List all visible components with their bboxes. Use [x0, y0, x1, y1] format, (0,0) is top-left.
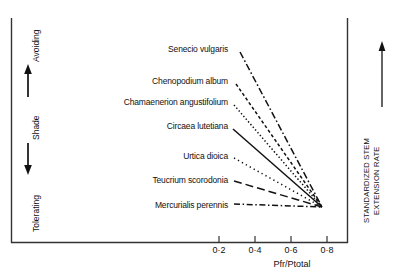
species-label-chenopodium-album: Chenopodium album: [60, 77, 228, 86]
species-label-circaea-lutetiana: Circaea lutetiana: [60, 122, 228, 131]
series-line-teucrium-scorodonia: [234, 181, 322, 207]
series-line-mercurialis-perennis: [234, 204, 322, 207]
right-axis-label-line1: STANDARDIZED STEM: [362, 138, 371, 223]
right-axis-label-line2: EXTENSION RATE: [372, 147, 381, 215]
species-label-senecio-vulgaris: Senecio vulgaris: [60, 45, 228, 54]
x-tick-label-0.6: 0·6: [275, 245, 307, 255]
left-axis-label-tolerating: Tolerating: [31, 195, 41, 232]
series-line-chamaenerion-angustifolium: [234, 105, 322, 207]
right-arrow-up-icon: [379, 41, 386, 107]
left-axis-label-avoiding: Avoiding: [31, 30, 41, 62]
series-line-group: [233, 52, 322, 207]
x-tick-label-0.4: 0·4: [239, 245, 271, 255]
arrow-up-icon: [24, 64, 32, 97]
species-label-chamaenerion-angustifolium: Chamaenerion angustifolium: [60, 98, 228, 107]
arrow-down-icon: [24, 143, 32, 175]
species-label-teucrium-scorodonia: Teucrium scorodonia: [60, 176, 228, 185]
series-line-circaea-lutetiana: [233, 129, 322, 207]
x-tick-label-0.2: 0·2: [203, 245, 235, 255]
x-tick-label-0.8: 0·8: [311, 245, 343, 255]
species-label-mercurialis-perennis: Mercurialis perennis: [60, 201, 228, 210]
species-label-urtica-dioica: Urtica dioica: [60, 152, 228, 161]
figure-container: Avoiding Shade Tolerating STANDARDIZED S…: [0, 0, 397, 280]
x-axis-title: Pfr/Ptotal: [237, 259, 347, 269]
series-line-chenopodium-album: [236, 84, 322, 207]
series-line-senecio-vulgaris: [240, 52, 322, 207]
left-axis-label-shade: Shade: [31, 115, 41, 140]
chart-svg: [0, 0, 397, 280]
series-line-urtica-dioica: [234, 158, 322, 207]
